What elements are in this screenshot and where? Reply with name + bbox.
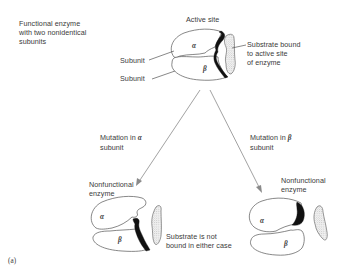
right-alpha-shape bbox=[249, 198, 302, 232]
panel-label: (a) bbox=[8, 257, 16, 266]
mutation-prefix: Mutation in bbox=[100, 133, 138, 142]
mutation-alpha-label: Mutation in α subunit bbox=[100, 133, 142, 152]
right-substrate-unbound bbox=[314, 206, 327, 240]
mutation-beta-label: Mutation in β subunit bbox=[250, 133, 292, 152]
right-alpha-symbol: α bbox=[260, 217, 264, 226]
active-site-label: Active site bbox=[186, 15, 219, 24]
right-result-line-1: Nonfunctional bbox=[281, 176, 326, 185]
right-nonfunctional-enzyme bbox=[249, 198, 327, 255]
alpha-subunit-shape bbox=[171, 29, 222, 57]
right-beta-symbol: β bbox=[284, 240, 288, 249]
substrate-bound bbox=[225, 34, 236, 74]
title-line-3: subunits bbox=[19, 37, 86, 46]
mutation-arrows bbox=[136, 90, 262, 193]
arrowhead-right bbox=[256, 185, 262, 193]
note-line-2: bound in either case bbox=[166, 241, 232, 250]
functional-enzyme-title: Functional enzyme with two nonidentical … bbox=[19, 19, 86, 47]
right-nonfunctional-label: Nonfunctional enzyme bbox=[281, 176, 326, 194]
substrate-line-1: Substrate bound bbox=[247, 40, 301, 49]
mutation-beta-line-2: subunit bbox=[250, 143, 292, 152]
substrate-bound-label: Substrate bound to active site of enzyme bbox=[247, 40, 301, 68]
substrate-not-bound-note: Substrate is not bound in either case bbox=[166, 232, 232, 250]
mutation-beta-symbol: β bbox=[288, 134, 292, 142]
enzyme-subunit-diagram: Functional enzyme with two nonidentical … bbox=[0, 0, 356, 277]
left-nonfunctional-label: Nonfunctional enzyme bbox=[89, 180, 134, 198]
left-substrate-unbound bbox=[152, 206, 162, 245]
subunit-alpha-leader bbox=[149, 51, 174, 60]
arrowhead-left bbox=[136, 178, 142, 186]
title-line-1: Functional enzyme bbox=[19, 19, 86, 28]
beta-symbol: β bbox=[203, 65, 207, 74]
functional-enzyme bbox=[149, 29, 246, 80]
alpha-symbol: α bbox=[192, 42, 196, 51]
left-nonfunctional-enzyme bbox=[91, 196, 161, 251]
mutation-alpha-symbol: α bbox=[138, 134, 142, 142]
subunit-alpha-label: Subunit bbox=[120, 56, 145, 65]
title-line-2: with two nonidentical bbox=[19, 28, 86, 37]
right-beta-shape bbox=[250, 230, 304, 256]
arrow-to-left bbox=[140, 90, 200, 180]
subunit-beta-label: Subunit bbox=[120, 74, 145, 83]
left-beta-symbol: β bbox=[118, 236, 122, 245]
left-result-line-2: enzyme bbox=[89, 189, 134, 198]
mutation-alpha-line-2: subunit bbox=[100, 143, 142, 152]
substrate-line-2: to active site bbox=[247, 49, 301, 58]
substrate-line-3: of enzyme bbox=[247, 58, 301, 67]
subunit-beta-leader bbox=[152, 71, 175, 79]
left-result-line-1: Nonfunctional bbox=[89, 180, 134, 189]
right-result-line-2: enzyme bbox=[281, 185, 326, 194]
note-line-1: Substrate is not bbox=[166, 232, 232, 241]
mutation-prefix: Mutation in bbox=[250, 133, 288, 142]
left-alpha-symbol: α bbox=[100, 213, 104, 222]
